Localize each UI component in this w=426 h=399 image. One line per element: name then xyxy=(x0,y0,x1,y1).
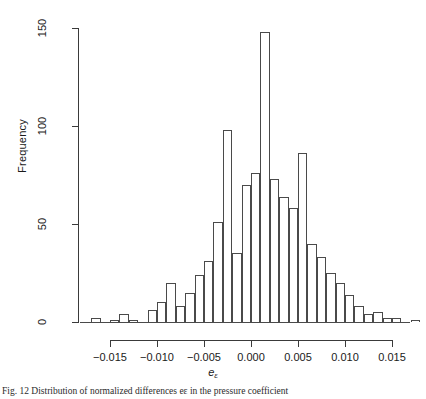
y-axis-line xyxy=(78,28,79,322)
x-axis-label-subscript: ε xyxy=(214,371,218,380)
histogram-bar xyxy=(298,153,307,322)
histogram-bar xyxy=(195,275,204,322)
histogram-bar xyxy=(289,208,298,322)
histogram-bar xyxy=(157,302,166,322)
histogram-bar xyxy=(213,222,222,322)
y-axis-tick-label: 0 xyxy=(35,302,49,342)
histogram-bar xyxy=(91,318,100,322)
y-axis-tick xyxy=(72,28,79,29)
x-axis-tick xyxy=(345,340,346,347)
histogram-bar xyxy=(185,293,194,322)
histogram-bar xyxy=(411,320,420,322)
histogram-bar xyxy=(232,253,241,322)
y-axis-tick-label: 100 xyxy=(35,106,49,146)
y-axis-tick xyxy=(72,126,79,127)
histogram-bar xyxy=(119,314,128,322)
y-axis-tick-label: 50 xyxy=(35,204,49,244)
histogram-bar xyxy=(307,244,316,322)
histogram-bar xyxy=(326,273,335,322)
y-axis-tick xyxy=(72,322,79,323)
histogram-bar xyxy=(110,320,119,322)
x-axis-tick xyxy=(298,340,299,347)
x-axis-tick xyxy=(157,340,158,347)
figure-caption: Fig. 12 Distribution of normalized diffe… xyxy=(2,386,424,396)
x-axis-tick xyxy=(392,340,393,347)
histogram-bar xyxy=(204,261,213,322)
histogram-bar xyxy=(270,179,279,322)
y-axis-label: Frequency xyxy=(16,86,28,206)
histogram-bar xyxy=(260,32,269,322)
histogram-bar xyxy=(166,283,175,322)
x-axis-tick xyxy=(204,340,205,347)
histogram-bar xyxy=(317,257,326,322)
histogram-bar xyxy=(336,283,345,322)
histogram-bar xyxy=(176,306,185,322)
histogram-bar xyxy=(373,312,382,322)
histogram-bar xyxy=(354,306,363,322)
histogram-bar xyxy=(251,173,260,322)
histogram-bar xyxy=(242,185,251,322)
x-axis-tick-label: 0.015 xyxy=(362,351,422,363)
histogram-bar xyxy=(364,314,373,322)
histogram-bar xyxy=(129,320,138,322)
x-axis-label: eε xyxy=(0,366,426,380)
histogram-bar xyxy=(223,130,232,322)
histogram-bar xyxy=(392,318,401,322)
x-axis-tick xyxy=(251,340,252,347)
y-axis-tick-label: 150 xyxy=(35,8,49,48)
x-axis-tick xyxy=(110,340,111,347)
histogram-bar xyxy=(279,197,288,322)
histogram-bar xyxy=(345,295,354,322)
histogram-bar xyxy=(148,310,157,322)
y-axis-tick xyxy=(72,224,79,225)
x-baseline xyxy=(80,322,410,323)
histogram-bar xyxy=(383,318,392,322)
histogram-figure: Frequency 050100150 −0.015−0.010−0.0050.… xyxy=(0,0,426,399)
